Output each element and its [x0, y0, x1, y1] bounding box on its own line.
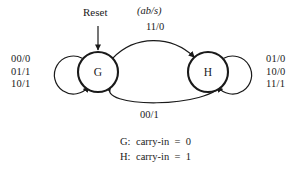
legend-row: H: carry-in = 1 [120, 149, 191, 164]
legend-key-g: G: [120, 134, 136, 149]
legend-text-g: carry-in = 0 [136, 134, 191, 149]
self-loop-h-condition-2: 10/0 [266, 66, 285, 79]
self-loop-g-condition-1: 00/0 [11, 53, 30, 66]
transition-label-h-to-g: 00/1 [140, 110, 159, 121]
legend: G: carry-in = 0 H: carry-in = 1 [120, 134, 191, 164]
self-loop-g-condition-2: 01/1 [11, 66, 30, 79]
self-loop-labels-h: 01/0 10/0 11/1 [266, 53, 285, 91]
legend-key-h: H: [120, 149, 136, 164]
transition-label-g-to-h: 11/0 [146, 22, 164, 33]
state-diagram: G H Reset (ab/s) 11/0 00/1 00/0 01/1 10/… [0, 0, 305, 174]
self-loop-labels-g: 00/0 01/1 10/1 [11, 53, 30, 91]
state-label-g: G [94, 66, 102, 78]
legend-row: G: carry-in = 0 [120, 134, 191, 149]
reset-label: Reset [83, 7, 107, 18]
self-loop-g-condition-3: 10/1 [11, 78, 30, 91]
legend-text-h: carry-in = 1 [136, 149, 191, 164]
transition-g-to-h-path [113, 41, 195, 59]
self-loop-h-condition-3: 11/1 [266, 78, 285, 91]
notation-label: (ab/s) [137, 6, 162, 17]
state-label-h: H [204, 66, 212, 78]
self-loop-h-condition-1: 01/0 [266, 53, 285, 66]
